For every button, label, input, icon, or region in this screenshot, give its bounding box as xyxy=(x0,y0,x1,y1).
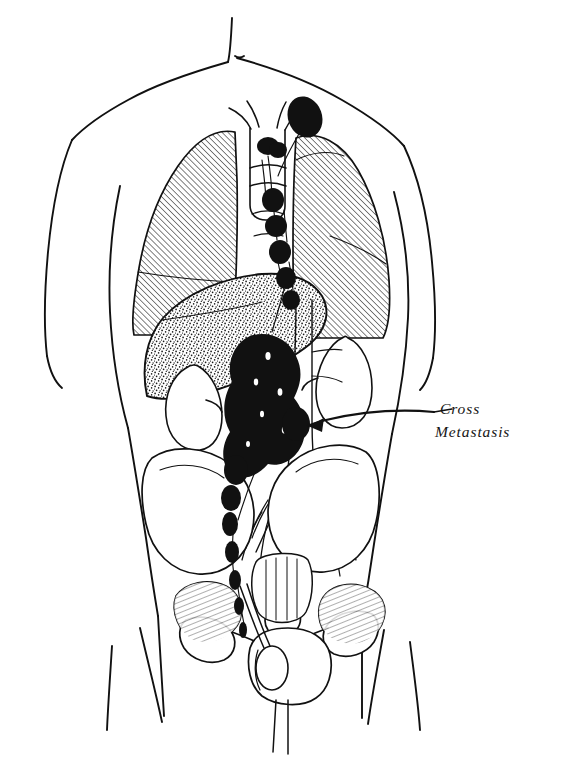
sacrum xyxy=(252,553,313,622)
mediastinal-node-1 xyxy=(262,188,284,212)
anatomical-figure: Cross Metastasis xyxy=(0,0,561,757)
penis-root xyxy=(273,700,288,754)
iliac-node-chain-2 xyxy=(221,485,241,511)
annotation-line-1: Cross xyxy=(440,400,480,417)
iliac-node-chain-3 xyxy=(222,512,238,536)
mediastinal-node-4 xyxy=(276,267,296,289)
cross-metastasis-annotation: Cross Metastasis xyxy=(434,400,510,440)
mediastinal-node-2 xyxy=(265,215,287,237)
inguinal-node-4 xyxy=(239,622,247,638)
left-testis xyxy=(255,646,288,690)
mediastinal-node-5 xyxy=(282,290,300,310)
right-iliac-lymph-node xyxy=(282,407,310,441)
inguinal-node-2 xyxy=(229,570,241,590)
annotation-line-2: Metastasis xyxy=(434,423,510,440)
supraclavicular-node xyxy=(282,91,328,142)
inguinal-node-3 xyxy=(234,597,244,615)
mediastinal-node-3 xyxy=(269,240,291,264)
iliac-node-chain-1 xyxy=(224,455,248,485)
anatomy-illustration: Cross Metastasis xyxy=(0,0,561,757)
inguinal-node-1 xyxy=(225,541,239,563)
hilar-node-1 xyxy=(269,142,287,158)
